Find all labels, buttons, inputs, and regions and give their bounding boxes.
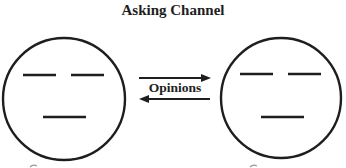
left-face (3, 38, 125, 160)
cropped-text-fragment-right (250, 165, 257, 167)
channel-label: Opinions (140, 80, 210, 96)
left-face-outline (3, 38, 125, 160)
arrow-left (139, 95, 210, 103)
right-face (221, 38, 341, 158)
right-face-outline (221, 38, 341, 158)
cropped-text-fragment-left (30, 165, 37, 167)
